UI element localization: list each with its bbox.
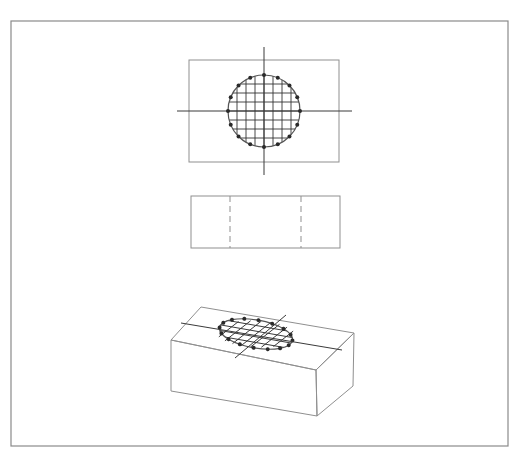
perimeter-point bbox=[248, 142, 252, 146]
perimeter-point bbox=[226, 109, 230, 113]
technical-drawing bbox=[0, 0, 517, 456]
box-top-face bbox=[171, 307, 354, 370]
perimeter-point bbox=[237, 134, 241, 138]
perimeter-point bbox=[229, 123, 233, 127]
perimeter-point bbox=[295, 123, 299, 127]
perimeter-point bbox=[298, 109, 302, 113]
front-view-outline bbox=[191, 196, 340, 248]
outer-frame bbox=[11, 21, 508, 446]
perimeter-point bbox=[287, 134, 291, 138]
box-right-face bbox=[316, 333, 354, 416]
perimeter-point bbox=[276, 142, 280, 146]
iso-grid-group bbox=[215, 311, 297, 356]
perimeter-point bbox=[242, 316, 247, 321]
perimeter-point bbox=[237, 84, 241, 88]
perimeter-point bbox=[265, 347, 270, 352]
perimeter-point bbox=[262, 73, 266, 77]
top-view bbox=[177, 47, 352, 175]
perimeter-point bbox=[229, 95, 233, 99]
perimeter-point bbox=[262, 145, 266, 149]
perimeter-point bbox=[276, 76, 280, 80]
isometric-view bbox=[171, 307, 354, 416]
front-view bbox=[191, 196, 340, 248]
box-front-face bbox=[171, 340, 317, 416]
perimeter-point bbox=[295, 95, 299, 99]
perimeter-point bbox=[287, 84, 291, 88]
perimeter-point bbox=[248, 76, 252, 80]
